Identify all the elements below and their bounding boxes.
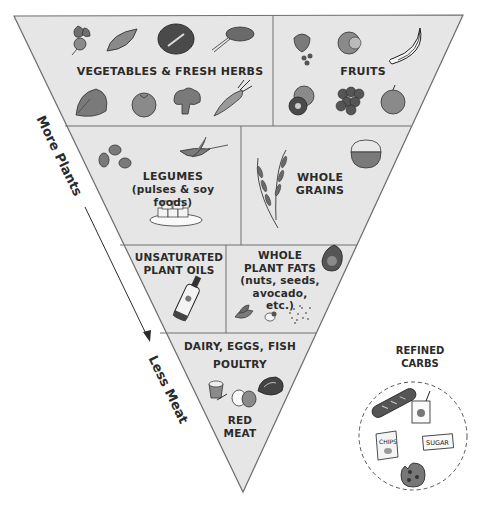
- label-plant-oils: UNSATURATED PLANT OILS: [134, 251, 224, 276]
- baguette-icon: [370, 386, 418, 419]
- label-line: MEAT: [210, 427, 270, 440]
- label-line: (nuts, seeds,: [240, 274, 320, 287]
- grain-bowl-icon: [351, 140, 381, 168]
- label-line: WHOLE: [240, 249, 320, 262]
- label-line: WHOLE: [290, 171, 350, 184]
- chips-bag-label: CHIPS: [379, 438, 397, 445]
- food-pyramid-diagram: CHIPS SUGAR VEGETABLES & FRESH HERBS FRU…: [0, 0, 484, 510]
- label-legumes: LEGUMES (pulses & soy foods): [113, 170, 233, 208]
- label-plant-fats: WHOLE PLANT FATS (nuts, seeds, avocado, …: [240, 249, 320, 312]
- label-line: LEGUMES: [113, 170, 233, 183]
- label-line: REFINED: [380, 345, 460, 358]
- label-line: (pulses & soy foods): [113, 183, 233, 208]
- label-line: avocado, etc.): [240, 287, 320, 312]
- label-line: DAIRY, EGGS, FISH: [180, 340, 300, 353]
- label-dairy-eggs-fish: DAIRY, EGGS, FISH: [180, 340, 300, 353]
- tomato-icon: [132, 93, 156, 117]
- label-line: RED: [210, 414, 270, 427]
- label-fruits: FRUITS: [323, 65, 403, 78]
- label-line: GRAINS: [290, 184, 350, 197]
- label-line: FRUITS: [323, 65, 403, 78]
- arrow-head-icon: [143, 330, 151, 342]
- label-line: PLANT OILS: [134, 264, 224, 277]
- label-refined-carbs: REFINED CARBS: [380, 345, 460, 370]
- label-vegetables-herbs: VEGETABLES & FRESH HERBS: [70, 65, 270, 78]
- sugar-packet-label: SUGAR: [426, 439, 449, 447]
- label-line: VEGETABLES & FRESH HERBS: [70, 65, 270, 78]
- label-poultry: POULTRY: [200, 358, 280, 371]
- label-line: PLANT FATS: [240, 262, 320, 275]
- label-line: POULTRY: [200, 358, 280, 371]
- cookie-icon: [401, 463, 425, 487]
- label-line: CARBS: [380, 358, 460, 371]
- chips-bag-icon: CHIPS: [376, 431, 398, 460]
- sugar-packet-icon: SUGAR: [422, 434, 453, 451]
- label-line: UNSATURATED: [134, 251, 224, 264]
- label-whole-grains: WHOLE GRAINS: [290, 171, 350, 197]
- label-red-meat: RED MEAT: [210, 414, 270, 439]
- red-cabbage-icon: [158, 24, 194, 54]
- eggs-icon: [232, 390, 256, 407]
